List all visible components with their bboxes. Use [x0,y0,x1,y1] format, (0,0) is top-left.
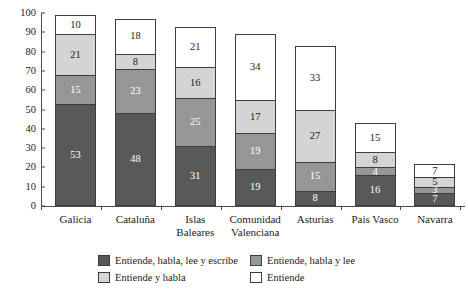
y-tick-mark [41,32,45,33]
y-tick-label: 80 [26,46,42,57]
bar-segment-value: 34 [250,62,261,73]
bar-stack: 7357 [414,164,455,206]
bar-segment-value: 48 [130,154,141,165]
bar-segment: 15 [55,75,96,104]
bar-segment-value: 18 [130,31,141,42]
bar-segment-value: 7 [432,194,437,205]
legend-label: Entiende, habla, lee y escribe [115,255,238,266]
bar-stack: 19191734 [235,34,276,206]
bar-segment-value: 4 [372,167,377,178]
legend-swatch-icon [250,255,262,266]
bar-segment-value: 21 [70,50,81,61]
bar-segment: 19 [235,169,276,206]
bar-segment-value: 17 [250,112,261,123]
bar-segment: 33 [295,46,336,110]
bar-segment-value: 19 [250,182,261,193]
bar-segment: 15 [355,123,396,152]
bar-segment: 7 [414,164,455,178]
y-tick-mark [41,13,45,14]
legend-label: Entiende, habla y lee [267,255,355,266]
bar-segment-value: 19 [250,146,261,157]
y-tick-label: 0 [31,201,41,212]
y-tick-label: 100 [20,8,41,19]
plot-area: 0102030405060708090100 53152110482381831… [41,13,460,206]
bar-segment-value: 10 [70,20,81,31]
y-tick-mark [41,167,45,168]
bar-segment: 16 [355,175,396,206]
bar-segment: 10 [55,15,96,34]
bar-segment-value: 7 [432,166,437,177]
y-tick-mark [41,186,45,187]
bar-segment-value: 15 [310,171,321,182]
x-tick-mark [101,206,102,210]
legend-swatch-icon [98,272,110,283]
bar-stack: 53152110 [55,15,96,206]
legend-swatch-icon [250,272,262,283]
x-tick-mark [281,206,282,210]
y-tick-label: 20 [26,162,42,173]
x-tick-mark [41,206,42,210]
legend-item[interactable]: Entiende y habla [98,272,250,283]
bar-segment: 18 [115,19,156,54]
bar-segment: 17 [235,100,276,133]
bar-segment: 15 [295,162,336,191]
x-tick-mark [161,206,162,210]
x-axis-label: Navarra [389,213,468,226]
legend-label: Entiende y habla [115,272,186,283]
bar-segment: 48 [115,113,156,206]
y-tick-label: 40 [26,124,42,135]
x-axis-line [41,206,465,207]
legend-swatch-icon [98,255,110,266]
bar-stack: 164815 [355,123,396,206]
bar-segment-value: 15 [70,85,81,96]
y-tick-mark [41,128,45,129]
x-tick-mark [341,206,342,210]
bar-segment: 27 [295,110,336,162]
bar-segment-value: 23 [130,86,141,97]
bar-segment: 16 [175,67,216,98]
legend-item[interactable]: Entiende, habla, lee y escribe [98,255,250,266]
bar-segment: 23 [115,69,156,113]
bar-segment-value: 16 [370,185,381,196]
bar-segment: 21 [175,27,216,68]
bar-stack: 8152733 [295,46,336,206]
y-tick-label: 50 [26,104,42,115]
x-tick-mark [221,206,222,210]
bar-segment: 25 [175,98,216,146]
y-tick-label: 30 [26,143,42,154]
bar-segment: 8 [295,191,336,206]
bar-segment: 34 [235,34,276,100]
bar-segment: 5 [414,177,455,187]
y-tick-mark [41,109,45,110]
bar-segment-value: 27 [310,131,321,142]
stacked-bar-chart: 0102030405060708090100 53152110482381831… [0,0,468,297]
y-tick-mark [41,90,45,91]
y-tick-mark [41,51,45,52]
bar-segment: 21 [55,34,96,75]
bar-segment: 19 [235,133,276,170]
bar-segment: 8 [355,152,396,167]
bar-stack: 31251621 [175,27,216,206]
bar-segment-value: 8 [312,193,317,204]
bar-segment-value: 15 [370,133,381,144]
bar-segment-value: 8 [133,57,138,68]
y-tick-mark [41,148,45,149]
y-tick-label: 10 [26,181,42,192]
legend-item[interactable]: Entiende, habla y lee [250,255,388,266]
legend-item[interactable]: Entiende [250,272,388,283]
x-tick-mark [460,206,461,210]
bar-segment-value: 25 [190,117,201,128]
bar-segment: 4 [355,167,396,175]
bar-stack: 4823818 [115,19,156,206]
y-tick-label: 70 [26,66,42,77]
legend-label: Entiende [267,272,304,283]
bar-segment-value: 31 [190,171,201,182]
bar-segment-value: 21 [190,42,201,53]
bar-segment: 31 [175,146,216,206]
y-tick-label: 90 [26,27,42,38]
bar-segment-value: 5 [432,177,437,188]
x-tick-mark [400,206,401,210]
bar-segment-value: 8 [372,155,377,166]
bar-segment-value: 53 [70,150,81,161]
chart-legend: Entiende, habla, lee y escribeEntiende, … [98,252,388,286]
